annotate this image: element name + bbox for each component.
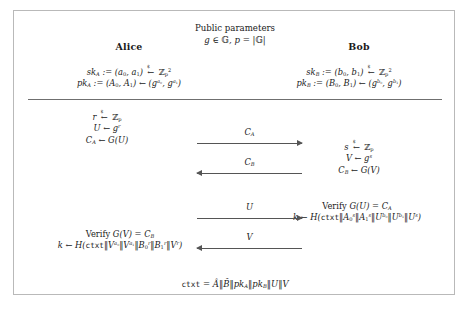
alice-compute-u: U ← gr [32,123,182,134]
message-label-cb: CB [197,157,302,169]
bob-round1-block: s ←$ ℤp V ← gs CB ← G(V) [284,142,434,176]
bob-compute-v: V ← gs [284,153,434,164]
arrow-shaft [197,245,302,252]
arrow-head-right-icon [297,140,303,146]
header-separator [28,99,442,100]
alice-compute-ca: CA ← G(U) [32,135,182,146]
arrow-head-left-icon [196,245,202,251]
public-parameters-title: Public parameters [14,23,456,33]
bob-public-key: pkB := (B0, B1) ← (gb0, gb1) [246,78,452,89]
bob-compute-cb: CB ← G(V) [284,165,434,176]
alice-verify-commitment: Verify G(V) = CB [22,229,218,240]
alice-public-key: pkA := (A0, A1) ← (ga0, ga1) [24,78,234,89]
protocol-figure-frame: Public parameters g ∈ 𝔾, p = |𝔾| Alice B… [13,10,455,295]
message-arrow-u: U [197,202,302,222]
message-arrow-ca: CA [197,127,302,147]
message-arrow-v: V [197,232,302,252]
alice-secret-key: skA := (a0, a1) ←$ ℤp2 [24,67,234,78]
alice-verify-block: Verify G(V) = CB k ← H(ctxt‖Va0‖Va1‖B0r‖… [22,229,218,252]
arrow-shaft [197,215,302,222]
alice-derive-key: k ← H(ctxt‖Va0‖Va1‖B0r‖B1r‖Vr) [22,240,218,252]
bob-secret-key: skB := (b0, b1) ←$ ℤp2 [246,67,452,78]
message-label-v: V [197,232,302,244]
arrow-shaft [197,170,302,177]
party-name-alice: Alice [74,41,184,52]
alice-round1-block: r ←$ ℤp U ← gr CA ← G(U) [32,112,182,146]
context-definition: ctxt = Â‖B̂‖pkA‖pkB‖U‖V [14,279,456,291]
message-label-u: U [197,202,302,214]
bob-sample-s: s ←$ ℤp [284,142,434,153]
arrow-head-left-icon [196,170,202,176]
message-label-ca: CA [197,127,302,139]
keygen-bob: skB := (b0, b1) ←$ ℤp2 pkB := (B0, B1) ←… [246,67,452,90]
arrow-head-right-icon [297,215,303,221]
arrow-shaft [197,140,302,147]
keygen-alice: skA := (a0, a1) ←$ ℤp2 pkA := (A0, A1) ←… [24,67,234,90]
party-name-bob: Bob [304,41,414,52]
message-arrow-cb: CB [197,157,302,177]
alice-sample-r: r ←$ ℤp [32,112,182,123]
